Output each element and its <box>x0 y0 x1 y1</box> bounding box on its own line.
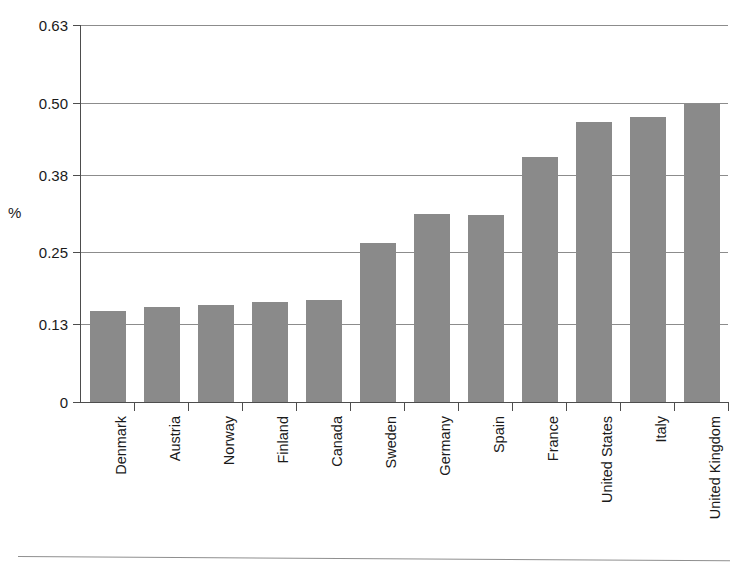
bar <box>90 311 126 402</box>
bar <box>468 215 504 402</box>
bottom-rule <box>18 556 730 561</box>
x-axis-tick-label: Germany <box>438 416 453 476</box>
bar <box>522 157 558 402</box>
x-axis-tick-label: Norway <box>222 416 237 465</box>
y-axis-tick <box>73 324 81 325</box>
y-axis-tick <box>73 25 81 26</box>
x-axis-tick <box>188 403 189 411</box>
bar <box>144 307 180 402</box>
bar <box>414 214 450 402</box>
bar <box>252 302 288 402</box>
x-axis-tick <box>296 403 297 411</box>
y-axis-tick-label: 0.50 <box>18 96 68 111</box>
x-axis-tick-label: Sweden <box>384 416 399 468</box>
x-axis-tick <box>350 403 351 411</box>
x-axis-tick-label: Denmark <box>114 416 129 475</box>
plot-area <box>80 25 728 402</box>
x-axis-tick-label: United States <box>600 416 615 503</box>
y-axis-tick <box>73 175 81 176</box>
x-axis-tick-label: France <box>546 416 561 461</box>
y-axis-line <box>80 25 81 403</box>
x-axis-tick <box>620 403 621 411</box>
bar-chart-figure: % 00.130.250.380.500.63DenmarkAustriaNor… <box>0 0 746 571</box>
gridline <box>80 103 728 104</box>
bar <box>684 104 720 402</box>
x-axis-tick <box>566 403 567 411</box>
bar <box>360 243 396 402</box>
y-axis-tick-label: 0.25 <box>18 245 68 260</box>
bar <box>198 305 234 402</box>
x-axis-tick <box>404 403 405 411</box>
x-axis-tick-label: Spain <box>492 416 507 453</box>
gridline <box>80 25 728 26</box>
x-axis-tick-label: Italy <box>654 416 669 443</box>
y-axis-tick-label: 0 <box>18 395 68 410</box>
y-axis-tick-label: 0.13 <box>18 317 68 332</box>
bar <box>306 300 342 402</box>
y-axis-tick-label: 0.38 <box>18 168 68 183</box>
x-axis-tick <box>674 403 675 411</box>
y-axis-tick <box>73 252 81 253</box>
y-axis-tick-label: 0.63 <box>18 18 68 33</box>
x-axis-tick-label: Finland <box>276 416 291 464</box>
x-axis-tick <box>242 403 243 411</box>
x-axis-tick <box>728 403 729 411</box>
x-axis-tick <box>134 403 135 411</box>
x-axis-tick <box>458 403 459 411</box>
x-axis-tick-label: United Kingdom <box>708 416 723 519</box>
y-axis-title: % <box>8 205 21 220</box>
bar <box>576 122 612 402</box>
y-axis-tick <box>73 103 81 104</box>
x-axis-tick <box>512 403 513 411</box>
y-axis-tick <box>73 402 81 403</box>
x-axis-tick-label: Austria <box>168 416 183 461</box>
bar <box>630 117 666 402</box>
x-axis-tick-label: Canada <box>330 416 345 467</box>
